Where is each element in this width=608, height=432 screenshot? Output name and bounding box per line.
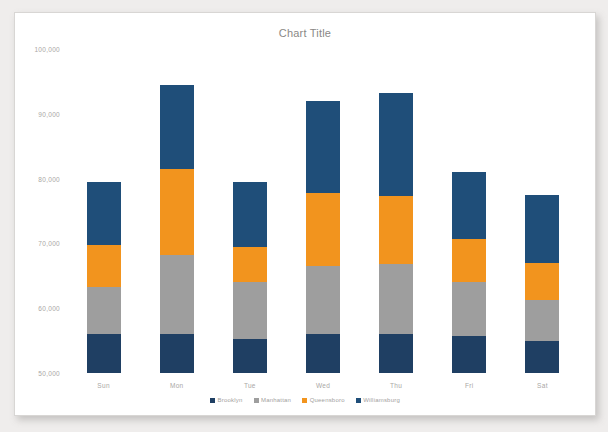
plot-area: 10,00020,00030,00040,00050,00060,00070,0…	[67, 49, 579, 373]
x-axis-tick-label: Thu	[390, 382, 402, 389]
bar-segment-queensboro[interactable]	[525, 263, 559, 300]
legend-swatch-icon	[254, 398, 259, 403]
y-axis-tick-label: 50,000	[38, 370, 60, 377]
bar-segment-williamsburg[interactable]	[452, 172, 486, 238]
bar-group-thu[interactable]: Thu	[379, 93, 413, 373]
bar-group-sun[interactable]: Sun	[87, 182, 121, 373]
bar-group-wed[interactable]: Wed	[306, 101, 340, 373]
bar-group-sat[interactable]: Sat	[525, 195, 559, 373]
bar-segment-brooklyn[interactable]	[306, 334, 340, 373]
bar-segment-manhattan[interactable]	[379, 264, 413, 334]
legend-item-brooklyn[interactable]: Brooklyn	[210, 397, 242, 403]
y-axis-tick-label: 90,000	[38, 110, 60, 117]
y-axis-tick-label: 100,000	[34, 46, 60, 53]
chart-sheet: Chart Title 10,00020,00030,00040,00050,0…	[14, 12, 596, 416]
legend-label: Brooklyn	[218, 397, 243, 403]
bar-segment-williamsburg[interactable]	[306, 101, 340, 193]
bar-segment-manhattan[interactable]	[306, 266, 340, 334]
legend-label: Manhattan	[261, 397, 291, 403]
y-axis-tick-label: 70,000	[38, 240, 60, 247]
bar-segment-queensboro[interactable]	[87, 245, 121, 287]
bar-segment-williamsburg[interactable]	[379, 93, 413, 197]
legend-label: Queensboro	[310, 397, 345, 403]
bar-segment-manhattan[interactable]	[525, 300, 559, 341]
x-axis-tick-label: Sun	[97, 382, 109, 389]
bar-group-mon[interactable]: Mon	[160, 85, 194, 373]
x-axis-tick-label: Tue	[244, 382, 256, 389]
legend-item-queensboro[interactable]: Queensboro	[302, 397, 345, 403]
bar-segment-brooklyn[interactable]	[233, 339, 267, 373]
bar-segment-manhattan[interactable]	[87, 287, 121, 334]
bar-segment-manhattan[interactable]	[160, 255, 194, 334]
legend-item-manhattan[interactable]: Manhattan	[254, 397, 292, 403]
bar-segment-williamsburg[interactable]	[87, 182, 121, 245]
bar-segment-williamsburg[interactable]	[233, 182, 267, 247]
chart-legend: BrooklynManhattanQueensboroWilliamsburg	[15, 397, 595, 403]
bar-segment-brooklyn[interactable]	[379, 334, 413, 373]
bar-segment-manhattan[interactable]	[233, 282, 267, 339]
y-axis-tick-label: 80,000	[38, 175, 60, 182]
y-axis-tick-label: 60,000	[38, 305, 60, 312]
x-axis-tick-label: Sat	[537, 382, 548, 389]
bar-segment-williamsburg[interactable]	[160, 85, 194, 169]
bar-group-tue[interactable]: Tue	[233, 182, 267, 373]
bar-segment-queensboro[interactable]	[233, 247, 267, 283]
page-background: Chart Title 10,00020,00030,00040,00050,0…	[0, 0, 608, 432]
bar-segment-queensboro[interactable]	[306, 193, 340, 266]
bar-series-container: SunMonTueWedThuFriSat	[67, 49, 579, 373]
bar-segment-queensboro[interactable]	[452, 239, 486, 283]
chart-canvas: Chart Title 10,00020,00030,00040,00050,0…	[15, 13, 595, 415]
x-axis-tick-label: Mon	[170, 382, 184, 389]
bar-segment-brooklyn[interactable]	[452, 336, 486, 373]
bar-segment-brooklyn[interactable]	[87, 334, 121, 373]
bar-group-fri[interactable]: Fri	[452, 172, 486, 373]
bar-segment-queensboro[interactable]	[160, 169, 194, 255]
bar-segment-manhattan[interactable]	[452, 282, 486, 335]
bar-segment-queensboro[interactable]	[379, 196, 413, 264]
bar-segment-brooklyn[interactable]	[525, 341, 559, 373]
legend-swatch-icon	[356, 398, 361, 403]
x-axis-tick-label: Fri	[465, 382, 473, 389]
chart-title: Chart Title	[15, 27, 595, 39]
bar-segment-williamsburg[interactable]	[525, 195, 559, 263]
x-axis-tick-label: Wed	[316, 382, 330, 389]
legend-label: Williamsburg	[363, 397, 400, 403]
bar-segment-brooklyn[interactable]	[160, 334, 194, 373]
legend-swatch-icon	[210, 398, 215, 403]
legend-swatch-icon	[302, 398, 307, 403]
legend-item-williamsburg[interactable]: Williamsburg	[356, 397, 400, 403]
